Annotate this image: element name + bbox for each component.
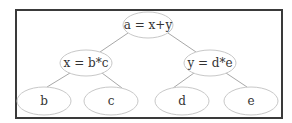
node-label: y = d*e — [186, 56, 232, 70]
node-c: c — [84, 87, 138, 115]
edge-y-d — [173, 73, 194, 88]
node-label: x = b*c — [64, 56, 109, 70]
edge-root-y — [168, 33, 196, 52]
node-y: y = d*e — [184, 50, 236, 76]
edge-root-x — [100, 33, 128, 52]
node-label: b — [40, 94, 48, 108]
node-label: c — [108, 94, 115, 108]
node-label: e — [247, 94, 254, 108]
expression-tree: a = x+yx = b*cy = d*ebcde — [0, 0, 292, 123]
node-b: b — [17, 87, 71, 115]
node-x: x = b*c — [60, 50, 112, 76]
node-root: a = x+y — [123, 12, 173, 38]
edge-y-e — [226, 73, 247, 87]
node-label: d — [178, 94, 186, 108]
node-d: d — [155, 87, 209, 115]
node-e: e — [224, 87, 278, 115]
edge-x-b — [47, 73, 70, 87]
edge-x-c — [102, 73, 122, 88]
node-label: a = x+y — [124, 18, 173, 32]
